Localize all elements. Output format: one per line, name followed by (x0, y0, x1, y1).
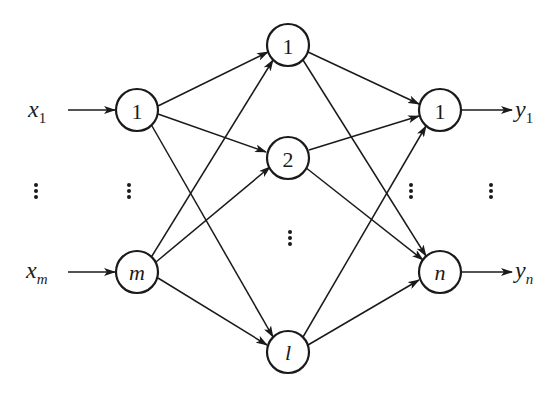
ellipsis-output-labels (489, 183, 493, 199)
edge-h2-on (305, 167, 423, 260)
hidden-layer: 1 2 l (267, 24, 309, 373)
edge-im-hl (158, 278, 267, 345)
input-hidden-edges (152, 52, 273, 345)
hidden-node-l-label: l (285, 340, 291, 365)
edge-h1-o1 (308, 52, 419, 104)
neural-network-diagram: x1 xm y1 yn 1 m 1 2 (0, 0, 557, 396)
input-node-1-label: 1 (132, 99, 143, 124)
output-node-1: 1 (419, 89, 461, 131)
output-arrows (461, 110, 512, 272)
input-node-m-label: m (129, 260, 145, 285)
output-layer: 1 n (419, 89, 461, 293)
input-label-xm: xm (25, 257, 48, 287)
edge-im-h2 (156, 167, 270, 262)
hidden-output-edges (303, 52, 426, 345)
input-node-1: 1 (116, 89, 158, 131)
edge-i1-h1 (158, 52, 268, 106)
edge-hl-on (308, 280, 419, 345)
output-label-yn: yn (513, 257, 533, 287)
hidden-node-2: 2 (267, 137, 309, 179)
input-arrows (68, 110, 115, 272)
output-node-n-label: n (435, 260, 446, 285)
input-node-m: m (116, 251, 158, 293)
hidden-node-1: 1 (267, 24, 309, 66)
edge-h2-o1 (309, 116, 419, 150)
ellipsis-input-labels (34, 183, 38, 199)
output-node-n: n (419, 251, 461, 293)
output-label-y1: y1 (513, 96, 533, 126)
hidden-node-1-label: 1 (283, 34, 294, 59)
hidden-node-2-label: 2 (283, 147, 294, 172)
ellipsis-input-nodes (127, 183, 131, 199)
edge-i1-h2 (158, 114, 266, 152)
output-node-1-label: 1 (435, 99, 446, 124)
input-layer: 1 m (116, 89, 158, 293)
ellipsis-output-nodes (409, 183, 413, 199)
ellipsis-hidden-nodes (288, 230, 292, 246)
output-labels: y1 yn (513, 96, 533, 287)
hidden-node-l: l (267, 331, 309, 373)
input-label-x1: x1 (27, 96, 46, 126)
